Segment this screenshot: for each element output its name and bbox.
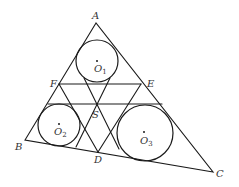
segment-ed (98, 84, 141, 152)
label-s: S (92, 109, 99, 120)
tangent-o1-left (84, 78, 119, 149)
triangle-abc (25, 23, 213, 172)
label-e: E (146, 78, 155, 89)
center-dot-o2 (58, 123, 60, 125)
label-b: B (14, 141, 22, 152)
center-dot-o1 (96, 60, 98, 62)
label-o1: O1 (94, 63, 107, 76)
circle-o3 (117, 105, 173, 161)
label-o2: O2 (54, 126, 67, 139)
label-a: A (91, 10, 99, 21)
label-d: D (93, 154, 102, 165)
label-o3: O3 (140, 135, 153, 148)
label-f: F (49, 78, 58, 89)
label-c: C (216, 168, 224, 179)
center-dot-o3 (143, 131, 145, 133)
geometry-diagram: O1 O2 O3 A B C D E F S (0, 0, 239, 187)
